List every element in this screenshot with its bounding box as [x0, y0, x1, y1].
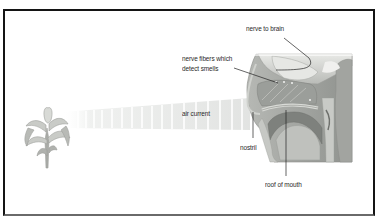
- label-nerve-fibers-line2: detect smells: [182, 65, 218, 73]
- label-roof-of-mouth: roof of mouth: [265, 181, 302, 189]
- air-current-band: [62, 98, 250, 130]
- label-nerve-fibers-line1: nerve fibers which: [182, 55, 232, 63]
- label-air-current: air current: [182, 110, 210, 118]
- diagram-illustration: [0, 0, 378, 216]
- head-cross-section: [246, 50, 356, 162]
- label-nostril: nostril: [240, 144, 257, 152]
- label-nerve-to-brain: nerve to brain: [246, 25, 284, 33]
